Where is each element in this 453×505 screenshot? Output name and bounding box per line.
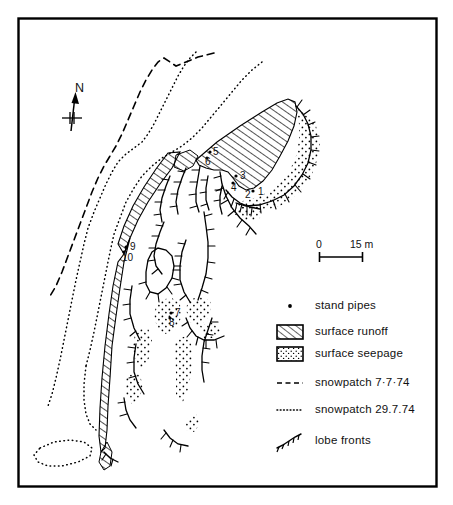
- legend-label-snowpatch-7-7-74: snowpatch 7·7·74: [315, 377, 410, 389]
- stand-pipe-label-8: 8: [169, 318, 175, 328]
- stand-pipe-label-4: 4: [231, 183, 237, 193]
- legend-dot-icon: [288, 304, 292, 308]
- stand-pipe-label-1: 1: [258, 187, 264, 197]
- stand-pipe-label-5: 5: [213, 147, 219, 157]
- legend-label-snowpatch-29-7-74: snowpatch 29.7.74: [315, 404, 415, 416]
- scale-bar-end-label: 15 m: [350, 239, 373, 250]
- scale-bar-start-label: 0: [316, 239, 322, 250]
- stand-pipe-label-7: 7: [175, 308, 181, 318]
- stand-pipe-label-6: 6: [205, 157, 211, 167]
- legend-label-surface-runoff: surface runoff: [315, 326, 388, 338]
- stand-pipe-label-9: 9: [130, 242, 136, 252]
- legend-stipple-swatch: [277, 347, 303, 361]
- stand-pipe-label-3: 3: [240, 171, 246, 181]
- legend-label-stand-pipes: stand pipes: [315, 300, 376, 312]
- stand-pipe-label-10: 10: [122, 253, 133, 263]
- legend-label-lobe-fronts: lobe fronts: [315, 435, 371, 447]
- stand-pipe-label-2: 2: [245, 190, 251, 200]
- legend-label-surface-seepage: surface seepage: [315, 348, 403, 360]
- legend-hatch-swatch: [277, 325, 303, 339]
- map-canvas: [0, 0, 453, 505]
- map-figure: N 0 15 m 1 2 3 4 5 6 7 8 9 10 stand pipe…: [0, 0, 453, 505]
- north-arrow-label: N: [75, 82, 84, 95]
